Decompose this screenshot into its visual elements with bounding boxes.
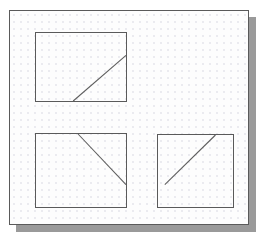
figure-box-bottom-right xyxy=(157,134,234,208)
figure-box-bottom-left xyxy=(35,133,127,208)
diagonal-line xyxy=(73,55,126,101)
diagonal-line xyxy=(78,134,126,185)
diagonal-line xyxy=(165,135,216,185)
figure-box-top-left xyxy=(35,32,127,102)
dot-grid-page xyxy=(9,10,249,225)
scanned-figure-canvas xyxy=(0,0,265,239)
diagonal-segment-bottom-right xyxy=(158,135,233,207)
diagonal-segment-bottom-left xyxy=(36,134,126,207)
diagonal-segment-top-left xyxy=(36,33,126,101)
